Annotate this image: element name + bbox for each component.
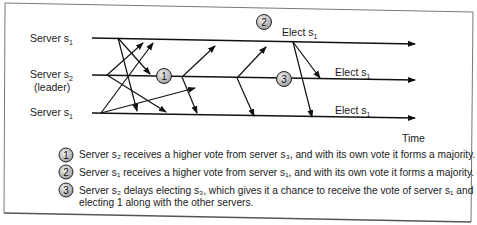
svg-text:2: 2 bbox=[261, 17, 267, 28]
marker-1: 1 bbox=[157, 69, 172, 84]
legend-note-1: 1 Server s₂ receives a higher vote from … bbox=[59, 148, 475, 162]
server-label-top: Server s1 bbox=[30, 32, 73, 46]
marker-3: 3 bbox=[277, 72, 292, 87]
time-axis-label: Time bbox=[402, 132, 425, 144]
svg-text:Server s₂ receives a higher vo: Server s₂ receives a higher vote from se… bbox=[79, 149, 475, 160]
svg-text:3: 3 bbox=[281, 74, 287, 85]
legend-note-3: 3 Server s₂ delays electing s₃, which gi… bbox=[59, 183, 474, 208]
server-label-bottom: Server s1 bbox=[30, 106, 73, 120]
consensus-election-diagram: Server s1 Server s2 (leader) Server s1 1 bbox=[0, 0, 477, 225]
timeline-top bbox=[92, 38, 415, 44]
svg-text:electing 1 along with the othe: electing 1 along with the other servers. bbox=[79, 197, 253, 208]
svg-text:Server s₂ delays electing s₃,: Server s₂ delays electing s₃, which give… bbox=[79, 185, 474, 196]
server-label-leader: Server s2 bbox=[30, 68, 73, 82]
legend-note-2: 2 Server s₁ receives a higher vote from … bbox=[59, 165, 474, 179]
svg-text:1: 1 bbox=[63, 150, 69, 161]
svg-text:Server s₁ receives a higher vo: Server s₁ receives a higher vote from se… bbox=[79, 167, 474, 178]
svg-text:2: 2 bbox=[63, 167, 69, 178]
server-leader-tag: (leader) bbox=[34, 81, 70, 93]
elect-label-bottom: Elect s1 bbox=[335, 104, 371, 118]
svg-text:1: 1 bbox=[161, 71, 167, 82]
marker-2: 2 bbox=[257, 15, 272, 30]
elect-label-middle: Elect s1 bbox=[335, 66, 371, 80]
svg-text:3: 3 bbox=[63, 185, 69, 196]
elect-label-top: Elect s1 bbox=[282, 26, 318, 40]
